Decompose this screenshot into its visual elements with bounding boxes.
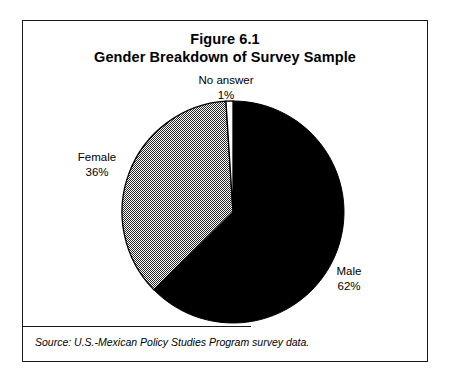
figure-frame: Figure 6.1 Gender Breakdown of Survey Sa… [22, 20, 428, 362]
pie-label-male-name: Male [309, 264, 389, 279]
pie-label-no-answer-name: No answer [23, 73, 429, 88]
pie-label-female-value: 36% [51, 165, 143, 180]
pie-label-female-name: Female [51, 150, 143, 165]
pie-label-female: Female 36% [51, 150, 143, 180]
pie-label-no-answer: No answer 1% [23, 73, 429, 103]
pie-label-no-answer-value: 1% [23, 88, 429, 103]
pie-chart: No answer 1% Female 36% Male 62% [23, 21, 429, 363]
pie-label-male-value: 62% [309, 279, 389, 294]
pie-label-male: Male 62% [309, 264, 389, 294]
footer-divider [23, 326, 251, 327]
source-note: Source: U.S.-Mexican Policy Studies Prog… [35, 336, 309, 348]
